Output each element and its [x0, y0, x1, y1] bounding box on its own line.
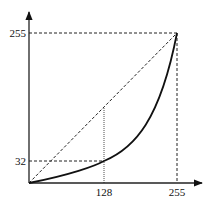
chart: 255 32 128 255 [0, 0, 210, 204]
x-tick-128: 128 [96, 186, 113, 198]
x-tick-255: 255 [169, 186, 186, 198]
y-tick-32: 32 [15, 155, 26, 167]
y-tick-255: 255 [10, 27, 27, 39]
